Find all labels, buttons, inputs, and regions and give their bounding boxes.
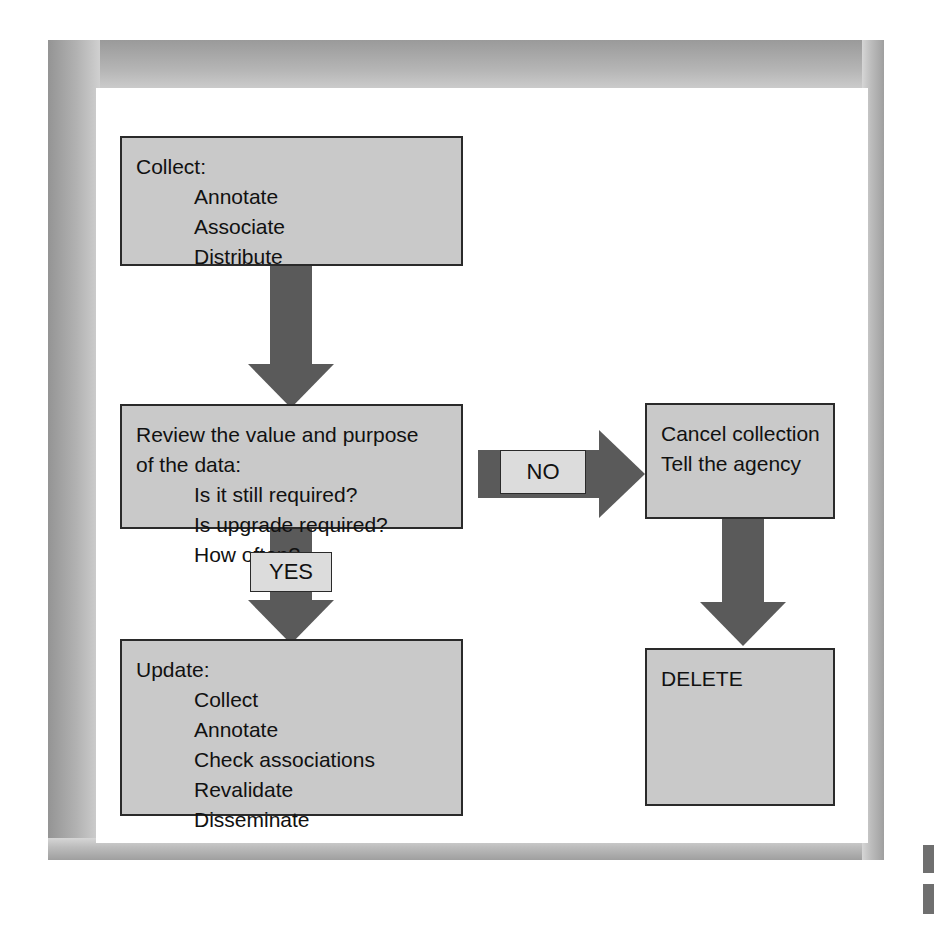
node-review-line-1: of the data: <box>136 450 461 480</box>
node-review-line-3: Is upgrade required? <box>136 510 461 540</box>
branch-label-yes[interactable]: YES <box>250 552 332 592</box>
node-delete[interactable]: DELETE <box>645 648 835 806</box>
node-update-line-1: Collect <box>136 685 461 715</box>
node-update-line-0: Update: <box>136 655 461 685</box>
arrow-collect-to-review <box>248 264 334 408</box>
node-delete-line-0: DELETE <box>661 664 833 694</box>
branch-label-no[interactable]: NO <box>500 450 586 494</box>
arrow-head <box>700 602 786 646</box>
node-collect-line-3: Distribute <box>136 242 461 272</box>
arrow-head <box>599 430 645 518</box>
page-frame-left-edge <box>48 40 100 856</box>
node-collect[interactable]: Collect: Annotate Associate Distribute <box>120 136 463 266</box>
node-update[interactable]: Update: Collect Annotate Check associati… <box>120 639 463 816</box>
node-collect-line-2: Associate <box>136 212 461 242</box>
node-review-line-0: Review the value and purpose <box>136 420 461 450</box>
node-update-line-3: Check associations <box>136 745 461 775</box>
node-update-line-4: Revalidate <box>136 775 461 805</box>
node-collect-line-1: Annotate <box>136 182 461 212</box>
page-frame-top-edge <box>48 40 884 94</box>
node-cancel-line-1: Tell the agency <box>661 449 833 479</box>
arrow-head <box>248 364 334 408</box>
node-update-line-5: Disseminate <box>136 805 461 835</box>
arrow-shaft <box>270 264 312 368</box>
node-review[interactable]: Review the value and purpose of the data… <box>120 404 463 529</box>
flowchart-page: Collect: Annotate Associate Distribute R… <box>0 0 940 930</box>
node-cancel-collection[interactable]: Cancel collection Tell the agency <box>645 403 835 519</box>
scan-artifact-lower <box>923 884 934 914</box>
scan-artifact-upper <box>923 845 934 873</box>
arrow-head <box>248 600 334 644</box>
arrow-shaft <box>722 516 764 606</box>
node-update-line-2: Annotate <box>136 715 461 745</box>
arrow-cancel-to-delete <box>700 516 786 646</box>
node-cancel-line-0: Cancel collection <box>661 419 833 449</box>
node-review-line-2: Is it still required? <box>136 480 461 510</box>
node-collect-line-0: Collect: <box>136 152 461 182</box>
